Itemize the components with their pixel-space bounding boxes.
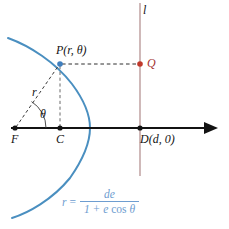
point-d-label: D(d, 0) — [140, 133, 175, 145]
conic-polar-figure: l P(r, θ) Q r θ F C D(d, 0) r = de 1 + e… — [0, 0, 229, 229]
angle-theta-label: θ — [40, 108, 46, 120]
point-q — [137, 61, 143, 67]
point-center-c — [57, 125, 62, 130]
equation-denominator: 1 + e cos θ — [80, 202, 139, 215]
center-label: C — [56, 133, 64, 145]
equation-fraction: de 1 + e cos θ — [80, 188, 139, 215]
point-d — [137, 125, 142, 130]
polar-equation: r = de 1 + e cos θ — [62, 188, 139, 215]
point-p-label: P(r, θ) — [56, 44, 87, 56]
equation-denominator-theta: θ — [127, 203, 136, 215]
equation-denominator-linear: 1 + e — [84, 203, 111, 215]
equation-lhs: r — [62, 196, 66, 208]
axis-arrowhead — [204, 122, 218, 134]
equation-numerator: de — [100, 188, 119, 201]
radius-segment-dashed — [16, 65, 59, 127]
focus-label: F — [11, 133, 18, 145]
point-q-label: Q — [147, 57, 156, 69]
equation-denominator-cos: cos — [111, 203, 126, 215]
directrix-label: l — [143, 4, 146, 16]
equation-equals-sign: = — [69, 196, 76, 208]
radius-label: r — [32, 86, 37, 98]
point-focus-f — [12, 125, 17, 130]
point-p — [57, 61, 63, 67]
